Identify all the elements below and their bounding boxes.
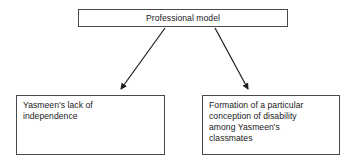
connector-root-to-right — [215, 28, 248, 89]
node-professional-model: Professional model — [78, 9, 288, 27]
node-yasmeens-lack-of-independence: Yasmeen's lack of independence — [16, 95, 165, 155]
node-professional-model-label: Professional model — [79, 10, 287, 26]
node-formation-of-conception-of-disability-label: Formation of a particular conception of … — [209, 100, 337, 144]
connector-root-to-left — [121, 28, 165, 89]
diagram-canvas: Professional model Yasmeen's lack of ind… — [0, 0, 352, 165]
node-yasmeens-lack-of-independence-label: Yasmeen's lack of independence — [23, 100, 161, 122]
node-formation-of-conception-of-disability: Formation of a particular conception of … — [202, 95, 340, 155]
